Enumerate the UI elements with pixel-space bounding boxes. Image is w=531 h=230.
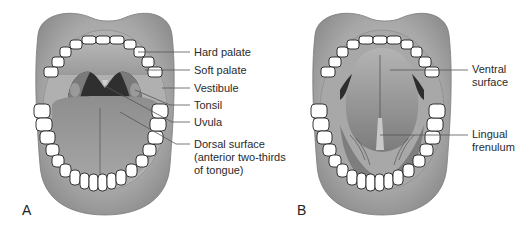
label-ventral-surface-line2: surface	[472, 76, 508, 89]
label-soft-palate: Soft palate	[194, 64, 247, 77]
label-vestibule: Vestibule	[194, 82, 239, 95]
label-ventral-surface-line1: Ventral	[472, 63, 508, 76]
label-ventral-surface: Ventral surface	[472, 63, 508, 89]
panel-b-mouth	[311, 13, 451, 215]
panel-letter-b: B	[297, 202, 306, 218]
label-lingual-frenulum-line1: Lingual	[472, 128, 515, 141]
label-lingual-frenulum-line2: frenulum	[472, 141, 515, 154]
label-uvula: Uvula	[194, 116, 222, 129]
label-dorsal-surface-line2: (anterior two-thirds	[194, 151, 286, 164]
panel-a-mouth	[34, 13, 174, 215]
label-hard-palate: Hard palate	[194, 46, 251, 59]
label-dorsal-surface-line3: of tongue)	[194, 164, 286, 177]
anatomy-figure	[0, 0, 531, 230]
tonsil-left	[70, 83, 80, 97]
panel-letter-a: A	[22, 202, 31, 218]
label-dorsal-surface-line1: Dorsal surface	[194, 138, 286, 151]
label-dorsal-surface: Dorsal surface (anterior two-thirds of t…	[194, 138, 286, 177]
label-tonsil: Tonsil	[194, 99, 222, 112]
label-lingual-frenulum: Lingual frenulum	[472, 128, 515, 154]
